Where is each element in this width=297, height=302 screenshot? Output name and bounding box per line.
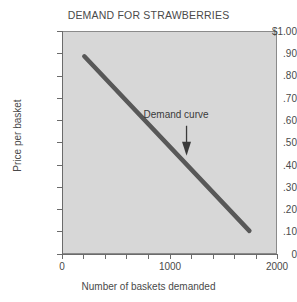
chart-title: DEMAND FOR STRAWBERRIES — [0, 9, 297, 21]
x-tick-mark — [148, 255, 149, 259]
x-tick-mark — [277, 255, 278, 259]
x-tick-mark — [126, 255, 127, 259]
x-tick-mark — [256, 255, 257, 259]
y-tick-mark — [57, 120, 62, 121]
y-tick-mark — [57, 53, 62, 54]
y-axis-line — [62, 31, 63, 255]
plot-svg — [63, 32, 276, 253]
y-tick-label: 0 — [251, 249, 297, 260]
x-tick-label: 0 — [37, 261, 87, 272]
y-tick-mark — [57, 76, 62, 77]
y-tick-label: .50 — [251, 137, 297, 148]
x-tick-mark — [191, 255, 192, 259]
y-axis-title: Price per basket — [12, 71, 23, 201]
demand-chart-figure: DEMAND FOR STRAWBERRIES Price per basket… — [0, 0, 297, 302]
y-tick-label: .90 — [251, 48, 297, 59]
x-tick-label: 1000 — [145, 261, 195, 272]
y-tick-label: .80 — [251, 70, 297, 81]
y-tick-mark — [57, 165, 62, 166]
annotation-arrow-icon — [182, 126, 191, 156]
y-tick-mark — [57, 231, 62, 232]
y-tick-label: .20 — [251, 204, 297, 215]
x-tick-mark — [83, 255, 84, 259]
y-tick-mark — [57, 98, 62, 99]
y-tick-label: $1.00 — [251, 26, 297, 37]
x-tick-mark — [213, 255, 214, 259]
y-tick-mark — [57, 187, 62, 188]
y-tick-label: .70 — [251, 93, 297, 104]
x-tick-mark — [105, 255, 106, 259]
x-axis-title: Number of baskets demanded — [0, 281, 297, 292]
y-tick-mark — [57, 142, 62, 143]
plot-area — [62, 31, 277, 254]
x-tick-mark — [62, 255, 63, 259]
y-tick-label: .30 — [251, 182, 297, 193]
y-tick-label: .10 — [251, 226, 297, 237]
y-tick-label: .40 — [251, 160, 297, 171]
y-tick-label: .60 — [251, 115, 297, 126]
demand-curve-annotation-label: Demand curve — [144, 109, 209, 120]
y-tick-mark — [57, 31, 62, 32]
x-tick-label: 2000 — [252, 261, 297, 272]
x-tick-mark — [234, 255, 235, 259]
demand-curve-line — [84, 56, 249, 231]
y-tick-mark — [57, 209, 62, 210]
x-tick-mark — [170, 255, 171, 259]
